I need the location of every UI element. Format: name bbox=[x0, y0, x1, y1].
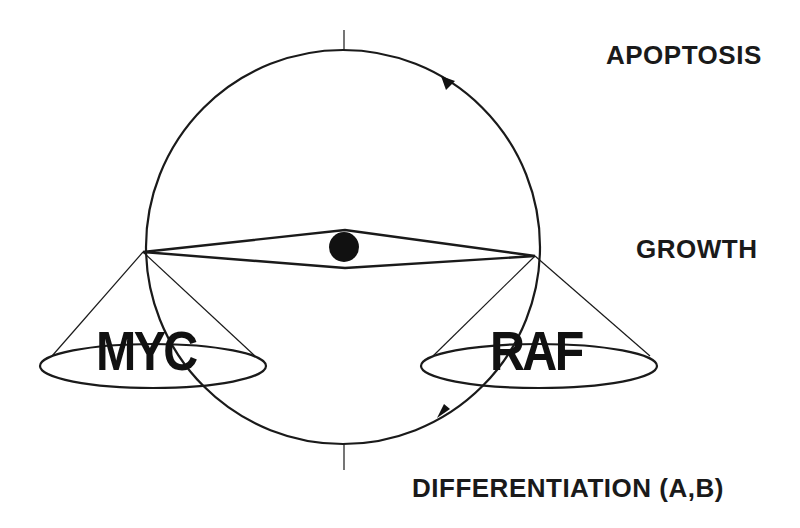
balance-diagram bbox=[0, 0, 800, 528]
label-apoptosis: APOPTOSIS bbox=[606, 42, 762, 68]
pivot-dot bbox=[329, 232, 359, 262]
pan-label-myc: MYC bbox=[96, 324, 196, 379]
pan-label-raf: RAF bbox=[490, 324, 582, 379]
label-differentiation: DIFFERENTIATION (A,B) bbox=[412, 475, 724, 501]
arrow-up-icon bbox=[441, 76, 455, 90]
label-growth: GROWTH bbox=[636, 236, 757, 262]
